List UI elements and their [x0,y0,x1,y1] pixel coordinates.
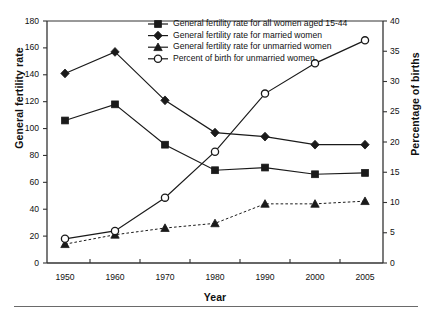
y-tick-right-5: 5 [390,227,420,237]
legend-label-1: General fertility rate for married women [173,30,322,40]
legend-label-2: General fertility rate for unmarried wom… [173,41,332,51]
y-tick-left-180: 180 [7,16,39,26]
footer-rule [14,306,418,307]
y-tick-right-30: 30 [390,76,420,86]
series-3 [61,37,368,243]
x-tick-label-1980: 1980 [191,272,239,282]
y-tick-left-160: 160 [7,42,39,52]
y-tick-right-15: 15 [390,167,420,177]
series-2 [61,197,369,248]
y-tick-right-10: 10 [390,197,420,207]
y-tick-right-40: 40 [390,16,420,26]
series-0 [62,101,369,178]
legend-label-0: General fertility rate for all women age… [173,18,347,28]
y-tick-left-40: 40 [7,204,39,214]
y-tick-right-0: 0 [390,258,420,268]
x-tick-label-1970: 1970 [141,272,189,282]
y-tick-right-35: 35 [390,46,420,56]
y-tick-left-20: 20 [7,231,39,241]
y-tick-right-20: 20 [390,137,420,147]
fertility-rate-chart: General fertility rate Percentage of bir… [0,0,430,315]
y-tick-left-100: 100 [7,123,39,133]
x-tick-label-1960: 1960 [91,272,139,282]
legend-label-3: Percent of birth for unmarried women [173,53,315,63]
y-tick-left-80: 80 [7,150,39,160]
x-tick-label-2000: 2000 [291,272,339,282]
legend-item-0 [148,21,168,28]
y-tick-left-140: 140 [7,69,39,79]
x-tick-label-2005: 2005 [341,272,389,282]
x-tick-label-1950: 1950 [41,272,89,282]
x-tick-label-1990: 1990 [241,272,289,282]
legend-item-1 [148,31,168,40]
y-tick-left-0: 0 [7,258,39,268]
legend-item-3 [148,55,168,62]
y-tick-right-25: 25 [390,106,420,116]
y-tick-left-60: 60 [7,177,39,187]
legend-item-2 [148,43,168,51]
y-tick-left-120: 120 [7,96,39,106]
